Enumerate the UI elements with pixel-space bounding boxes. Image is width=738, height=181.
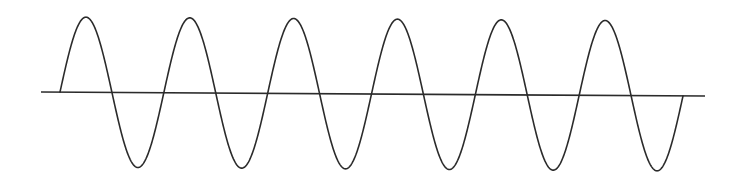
sine-wave-curve	[60, 17, 683, 171]
diagram-svg	[0, 0, 738, 181]
sine-wave-diagram	[0, 0, 738, 181]
horizontal-axis-line	[41, 92, 705, 96]
